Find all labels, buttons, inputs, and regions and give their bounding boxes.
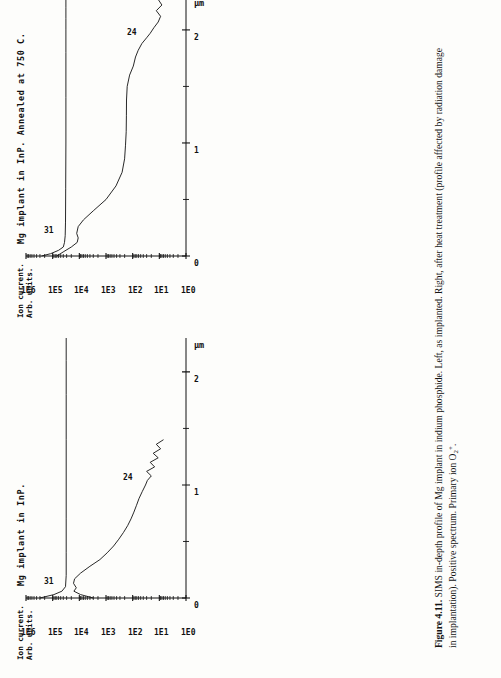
chart-as-implanted-curve-label-24: 24	[123, 473, 133, 482]
chart-as-implanted-x-axis-unit: µm	[194, 340, 204, 350]
chart-annealed-ytick-1E0: 1E0	[181, 286, 195, 295]
chart-annealed-ytick-1E4: 1E4	[74, 286, 88, 295]
chart-as-implanted-ytick-1E6: 1E6	[21, 628, 35, 637]
chart-as-implanted-ytick-1E2: 1E2	[128, 628, 142, 637]
chart-as-implanted-ytick-1E5: 1E5	[48, 628, 62, 637]
chart-as-implanted-ytick-1E0: 1E0	[181, 628, 195, 637]
chart-annealed-ytick-1E2: 1E2	[128, 286, 142, 295]
chart-as-implanted: Ion current. Arb. units. Mg implant in I…	[18, 330, 218, 660]
chart-annealed-xtick-2: 2	[194, 33, 199, 42]
figure-caption-label: Figure 4.11.	[433, 600, 444, 648]
chart-as-implanted-xtick-0: 0	[194, 602, 199, 611]
chart-annealed: Ion current. Arb. units. Mg implant in I…	[18, 0, 218, 318]
chart-annealed-xtick-1: 1	[194, 146, 199, 155]
chart-as-implanted-xtick-1: 1	[194, 488, 199, 497]
chart-as-implanted-xtick-2: 2	[194, 375, 199, 384]
figure-caption-text: SIMS in-depth profile of Mg implant in i…	[433, 48, 458, 648]
scanned-page: Ion current. Arb. units. Mg implant in I…	[0, 0, 501, 678]
chart-annealed-ytick-1E3: 1E3	[101, 286, 115, 295]
chart-as-implanted-ytick-1E3: 1E3	[101, 628, 115, 637]
chart-as-implanted-plot-area	[18, 330, 218, 660]
chart-as-implanted-ytick-1E4: 1E4	[74, 628, 88, 637]
figure-caption-superscript: +	[447, 446, 455, 450]
chart-annealed-curve-label-31: 31	[44, 226, 54, 235]
chart-annealed-xtick-0: 0	[194, 260, 199, 269]
chart-annealed-ytick-1E1: 1E1	[154, 286, 168, 295]
chart-annealed-plot-area	[18, 0, 218, 318]
chart-annealed-ytick-1E5: 1E5	[48, 286, 62, 295]
figure-caption-end: .	[447, 444, 458, 446]
figure-caption-subscript: 2	[452, 450, 460, 454]
chart-as-implanted-ytick-1E1: 1E1	[154, 628, 168, 637]
chart-annealed-ytick-1E6: 1E6	[21, 286, 35, 295]
chart-annealed-x-axis-unit: µm	[194, 0, 204, 8]
chart-as-implanted-curve-label-31: 31	[44, 577, 54, 586]
chart-annealed-curve-label-24: 24	[127, 28, 137, 37]
figure-caption: Figure 4.11. SIMS in-depth profile of Mg…	[432, 48, 463, 648]
